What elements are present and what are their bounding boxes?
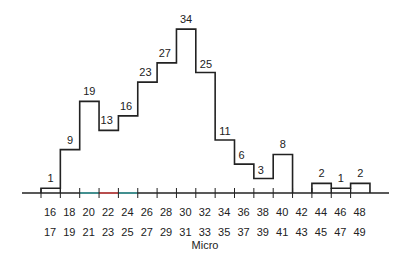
x-axis [22,188,389,198]
x-tick-label-top: 32 [199,206,211,218]
x-tick-labels: 1618202224262830323436384042444648171921… [44,206,366,238]
x-tick-label-bottom: 25 [121,226,133,238]
bar-value-label: 16 [120,100,132,112]
x-tick-label-bottom: 47 [334,226,346,238]
bar-value-label: 2 [319,167,325,179]
x-tick-label-top: 42 [295,206,307,218]
bar-value-label: 1 [48,172,54,184]
bar-value-label: 11 [219,125,230,137]
bar-value-label: 1 [338,172,344,184]
x-tick-label-top: 24 [121,206,133,218]
x-tick-label-bottom: 17 [44,226,56,238]
x-tick-label-top: 26 [141,206,153,218]
x-tick-label-top: 46 [334,206,346,218]
bar-value-label: 25 [200,58,212,70]
x-tick-label-bottom: 31 [179,226,191,238]
x-tick-label-bottom: 19 [63,226,75,238]
x-tick-label-bottom: 39 [257,226,269,238]
x-tick-label-bottom: 49 [353,226,365,238]
bar-value-label: 13 [101,114,113,126]
x-tick-label-top: 20 [83,206,95,218]
x-tick-label-top: 30 [179,206,191,218]
x-tick-label-bottom: 27 [141,226,153,238]
x-tick-label-top: 34 [218,206,230,218]
x-tick-label-top: 16 [44,206,56,218]
x-tick-label-top: 48 [353,206,365,218]
x-tick-label-top: 18 [63,206,75,218]
x-tick-label-bottom: 41 [276,226,288,238]
bar-value-label: 9 [67,134,73,146]
bar-value-label: 23 [139,66,151,78]
bar-value-label: 3 [258,164,264,176]
x-tick-label-bottom: 33 [199,226,211,238]
x-tick-label-bottom: 21 [83,226,95,238]
x-tick-label-top: 40 [276,206,288,218]
x-tick-label-bottom: 43 [295,226,307,238]
x-tick-label-top: 38 [257,206,269,218]
x-tick-label-bottom: 45 [315,226,327,238]
bar-value-label: 8 [280,138,286,150]
x-tick-label-top: 22 [102,206,114,218]
bar-value-label: 2 [357,167,363,179]
x-tick-label-bottom: 23 [102,226,114,238]
bar-value-label: 34 [180,13,192,25]
bar-value-label: 19 [83,85,95,97]
bar-value-label: 6 [239,149,245,161]
x-axis-title: Micro [192,239,219,251]
x-tick-label-top: 36 [237,206,249,218]
x-tick-label-bottom: 37 [237,226,249,238]
histogram-chart: 191913162327342511638212 161820222426283… [0,0,411,267]
bar-value-label: 27 [159,47,171,59]
bar-value-labels: 191913162327342511638212 [48,13,364,184]
x-tick-label-top: 28 [160,206,172,218]
x-tick-label-top: 44 [315,206,327,218]
x-tick-label-bottom: 35 [218,226,230,238]
x-tick-label-bottom: 29 [160,226,172,238]
